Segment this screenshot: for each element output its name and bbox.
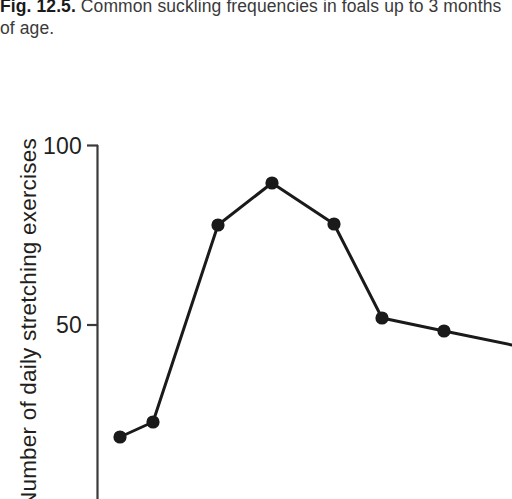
data-point-marker[interactable] [113, 430, 126, 443]
plot-area [0, 0, 512, 499]
series-line [120, 183, 512, 437]
data-point-marker[interactable] [327, 217, 340, 230]
data-point-marker[interactable] [211, 218, 224, 231]
line-chart-svg [0, 0, 512, 499]
figure-page: Fig. 12.5. Common suckling frequencies i… [0, 0, 512, 499]
data-point-marker[interactable] [146, 415, 159, 428]
data-point-marker[interactable] [375, 311, 388, 324]
data-series [113, 176, 512, 443]
data-point-marker[interactable] [437, 324, 450, 337]
data-point-marker[interactable] [265, 176, 278, 189]
